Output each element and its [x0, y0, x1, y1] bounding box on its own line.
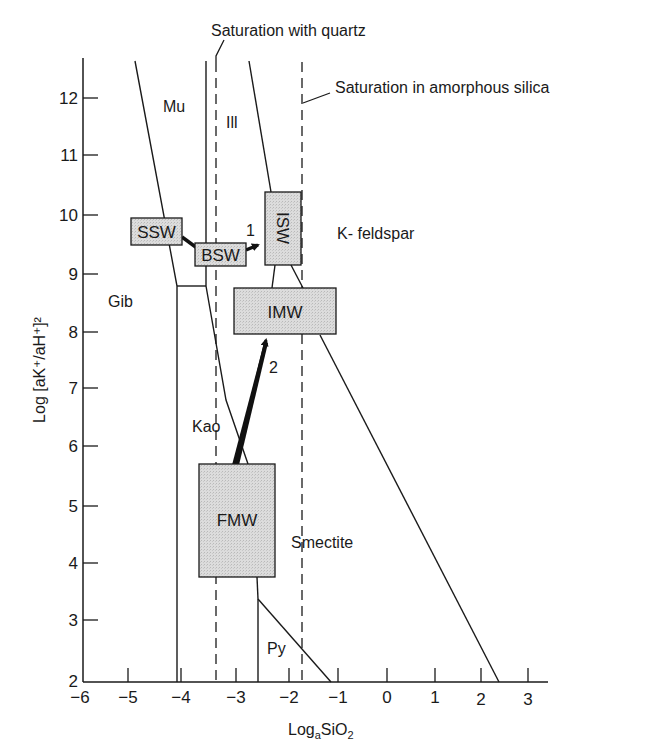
- box-isw: ISW: [265, 192, 301, 265]
- amorphous-silica-saturation-line: [302, 62, 330, 682]
- box-ssw-label: SSW: [137, 223, 176, 242]
- y-tick-10: 10: [59, 206, 78, 225]
- y-tick-3: 3: [69, 611, 78, 630]
- y-tick-11: 11: [60, 146, 78, 165]
- box-bsw-label: BSW: [201, 246, 240, 265]
- x-tick-3: 3: [523, 690, 532, 709]
- box-fmw-label: FMW: [217, 511, 258, 530]
- y-axis: 2 3 4 5 6 7 8 9 10 11 12: [59, 58, 98, 691]
- phase-diagram: 2 3 4 5 6 7 8 9 10 11 12 −6 −5 −4 −3 −2 …: [0, 0, 654, 752]
- region-k-feldspar: K- feldspar: [337, 225, 415, 242]
- x-tick-neg5: −5: [118, 688, 137, 707]
- region-ill: Ill: [226, 114, 238, 131]
- arrow-2: [232, 340, 268, 465]
- x-axis-title: LogaSiO2: [288, 721, 354, 741]
- region-kao: Kao: [192, 418, 221, 435]
- region-mu: Mu: [163, 98, 185, 115]
- x-axis: −6 −5 −4 −3 −2 −1 0 1 2 3: [70, 668, 548, 709]
- region-gib: Gib: [108, 293, 133, 310]
- y-tick-6: 6: [69, 437, 78, 456]
- y-axis-title: Log [aK⁺/aH⁺]²: [31, 316, 48, 423]
- region-py: Py: [267, 640, 286, 657]
- x-tick-neg3: −3: [226, 688, 245, 707]
- x-tick-neg6: −6: [70, 688, 89, 707]
- y-tick-9: 9: [69, 265, 78, 284]
- quartz-saturation-label: Saturation with quartz: [211, 22, 366, 39]
- y-tick-5: 5: [69, 497, 78, 516]
- y-tick-4: 4: [69, 554, 78, 573]
- x-tick-0: 0: [382, 688, 391, 707]
- arrow-1-label: 1: [246, 222, 255, 239]
- y-tick-8: 8: [69, 323, 78, 342]
- box-imw: IMW: [234, 288, 336, 334]
- y-tick-12: 12: [59, 89, 78, 108]
- region-smectite: Smectite: [291, 534, 353, 551]
- y-tick-7: 7: [69, 379, 78, 398]
- phase-boundaries: [135, 61, 499, 682]
- box-fmw: FMW: [199, 464, 275, 577]
- box-isw-label: ISW: [273, 212, 292, 244]
- arrow-2-label: 2: [269, 359, 278, 376]
- box-imw-label: IMW: [268, 303, 303, 322]
- amorphous-silica-saturation-label: Saturation in amorphous silica: [335, 79, 549, 96]
- box-ssw: SSW: [131, 218, 182, 245]
- box-bsw: BSW: [195, 243, 246, 266]
- x-tick-neg1: −1: [328, 688, 347, 707]
- x-tick-1: 1: [430, 688, 439, 707]
- x-tick-neg4: −4: [171, 688, 190, 707]
- x-tick-neg2: −2: [279, 688, 298, 707]
- x-tick-2: 2: [476, 690, 485, 709]
- quartz-saturation-line: [216, 40, 224, 682]
